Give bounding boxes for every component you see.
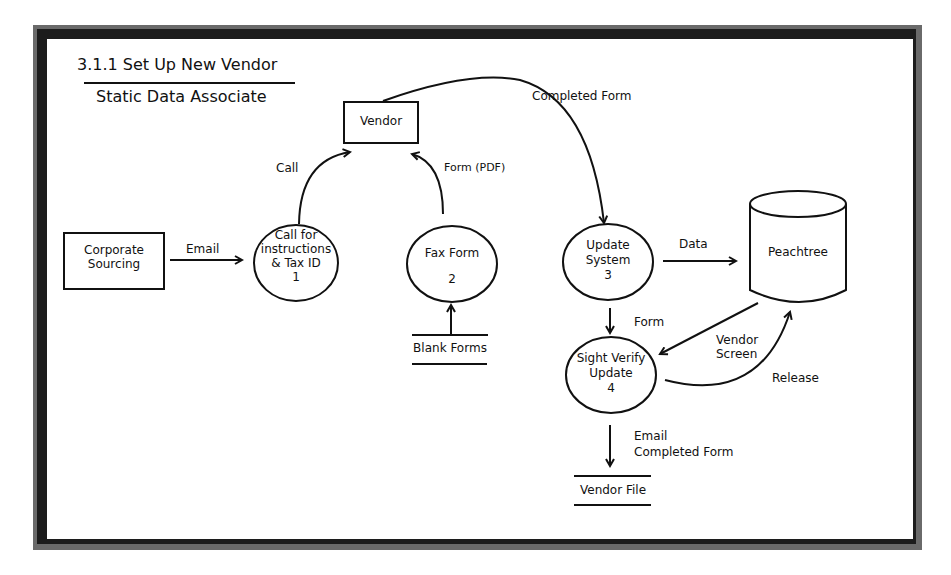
vendor-file-store: Vendor File	[572, 484, 654, 498]
peachtree-cylinder-top	[750, 191, 846, 217]
blank-forms-store: Blank Forms	[408, 342, 492, 356]
flow-label-release: Release	[772, 372, 819, 386]
flow-label-form-pdf: Form (PDF)	[444, 162, 505, 175]
entity-label-line: Sourcing	[64, 258, 164, 272]
flow-label-data: Data	[679, 238, 708, 252]
process-label-line: System	[563, 253, 653, 268]
process-number: 3	[563, 268, 653, 283]
corporate-sourcing-entity: Corporate Sourcing	[64, 244, 164, 272]
flow-label-form: Form	[634, 316, 664, 330]
peachtree-store: Peachtree	[750, 246, 846, 260]
process-label-line: instructions	[254, 242, 338, 256]
diagram-title: 3.1.1 Set Up New Vendor	[77, 56, 277, 74]
process-label-line: Sight Verify	[566, 351, 656, 366]
process-1: Call for instructions & Tax ID 1	[254, 228, 338, 284]
process-2: Fax Form 2	[407, 247, 497, 287]
vendor-entity: Vendor	[344, 115, 418, 129]
flow-label-email: Email	[186, 243, 219, 257]
process-3: Update System 3	[563, 238, 653, 283]
process-4: Sight Verify Update 4	[566, 351, 656, 396]
process-label-line: Call for	[254, 228, 338, 242]
process-label-line: Update	[566, 366, 656, 381]
diagram-subtitle: Static Data Associate	[96, 88, 267, 106]
flow-label-line: Vendor	[716, 333, 758, 347]
process-label-line: Update	[563, 238, 653, 253]
process-number: 4	[566, 381, 656, 396]
flow-label-call: Call	[276, 162, 298, 176]
process-label-line: Fax Form	[407, 247, 497, 261]
flow-label-completed-form: Completed Form	[532, 90, 632, 104]
flow-label-email-completed-form: Email Completed Form	[634, 428, 734, 460]
flow-label-line: Completed Form	[634, 444, 734, 460]
flow-label-vendor-screen: Vendor Screen	[716, 333, 758, 361]
process-number: 2	[407, 273, 497, 287]
flow-label-line: Screen	[716, 347, 758, 361]
flow-label-line: Email	[634, 428, 734, 444]
process-label-line: & Tax ID	[254, 256, 338, 270]
process-number: 1	[254, 270, 338, 284]
entity-label-line: Corporate	[64, 244, 164, 258]
